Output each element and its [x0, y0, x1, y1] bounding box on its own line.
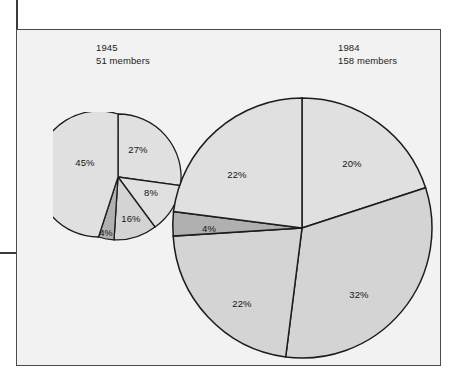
pie-1984-label-22-lower: 22% — [232, 298, 252, 309]
pie-1984-slice-22-upper[interactable] — [174, 98, 303, 228]
figure-page: 1945 51 members 1984 158 members 27% 8% … — [0, 0, 457, 385]
pie-chart-1984: 20% 32% 22% 4% 22% — [169, 95, 435, 361]
pie-1984-slice-22-lower[interactable] — [173, 228, 302, 357]
pie-1945-label-4: 4% — [99, 228, 112, 238]
pie-1945-caption: 1945 51 members — [96, 42, 150, 67]
pie-1945-label-16: 16% — [121, 213, 141, 224]
pie-1945-label-8: 8% — [144, 187, 158, 198]
pie-1984-label-20: 20% — [342, 158, 362, 169]
pie-1945-label-27: 27% — [128, 144, 148, 155]
pie-1984-label-4: 4% — [202, 223, 216, 234]
figure-frame: 1945 51 members 1984 158 members 27% 8% … — [16, 29, 441, 366]
pie-1984-caption: 1984 158 members — [338, 42, 397, 67]
pie-1945-label-45: 45% — [75, 157, 95, 168]
pie-1984-label-32: 32% — [349, 289, 369, 300]
pie-1984-label-22-upper: 22% — [227, 169, 247, 180]
pie-chart-1945: 27% 8% 16% 4% 45% — [53, 112, 183, 244]
